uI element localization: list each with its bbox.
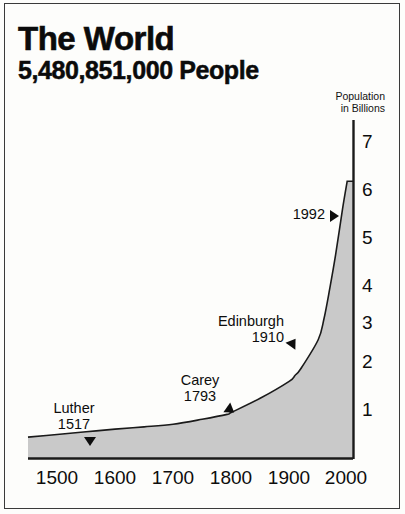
annotation-luther-year: 1517	[36, 416, 112, 432]
y-tick-label-7: 7	[362, 132, 384, 151]
annotation-present-year: 1992	[281, 206, 325, 222]
y-tick-label-1: 1	[362, 400, 384, 419]
annotation-present: 1992	[281, 206, 325, 222]
annotation-carey: Carey 1793	[163, 372, 237, 404]
plot-area	[0, 0, 405, 514]
annotation-luther: Luther 1517	[36, 400, 112, 432]
population-curve-svg	[0, 0, 405, 514]
annotation-luther-label: Luther	[36, 400, 112, 416]
x-tick-label-1800: 1800	[201, 468, 261, 488]
x-tick-label-1500: 1500	[27, 468, 87, 488]
annotation-present-marker-icon	[330, 210, 339, 222]
y-tick-label-5: 5	[362, 228, 384, 247]
y-tick-label-4: 4	[362, 276, 384, 295]
x-tick-label-1600: 1600	[85, 468, 145, 488]
chart-page: The World 5,480,851,000 People Populatio…	[0, 0, 405, 514]
annotation-carey-label: Carey	[163, 372, 237, 388]
y-tick-label-6: 6	[362, 180, 384, 199]
annotation-edinburgh-label: Edinburgh	[196, 313, 284, 329]
y-tick-label-2: 2	[362, 352, 384, 371]
x-tick-label-2000: 2000	[316, 468, 376, 488]
x-tick-label-1900: 1900	[259, 468, 319, 488]
x-tick-label-1700: 1700	[143, 468, 203, 488]
annotation-carey-year: 1793	[163, 388, 237, 404]
annotation-edinburgh-year: 1910	[196, 329, 284, 345]
y-tick-label-3: 3	[362, 313, 384, 332]
annotation-edinburgh: Edinburgh 1910	[196, 313, 284, 345]
annotation-luther-marker-icon	[84, 437, 96, 446]
